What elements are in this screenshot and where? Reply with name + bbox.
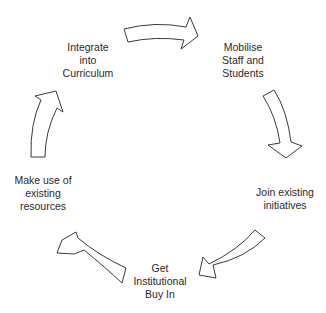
node-line: resources — [5, 200, 81, 213]
node-line: Make use of — [5, 174, 81, 187]
cycle-diagram: Mobilise Staff and Students Join existin… — [0, 0, 326, 313]
curved-arrow-down-left-icon — [199, 230, 265, 278]
node-line: Integrate — [53, 41, 123, 54]
curved-arrow-up-icon — [31, 91, 63, 157]
node-line: initiatives — [245, 199, 325, 212]
node-line: Mobilise — [208, 41, 278, 54]
curved-arrow-up-left-icon — [57, 232, 126, 283]
node-line: Join existing — [245, 186, 325, 199]
curved-arrow-right-icon — [124, 17, 198, 49]
node-integrate: Integrate into Curriculum — [53, 41, 123, 80]
node-buyin: Get Institutional Buy In — [125, 262, 195, 301]
node-resources: Make use of existing resources — [5, 174, 81, 213]
node-line: existing — [5, 187, 81, 200]
node-line: Buy In — [125, 288, 195, 301]
node-line: Curriculum — [53, 67, 123, 80]
node-line: Get — [125, 262, 195, 275]
node-line: into — [53, 54, 123, 67]
node-line: Students — [208, 67, 278, 80]
node-mobilise: Mobilise Staff and Students — [208, 41, 278, 80]
node-line: Institutional — [125, 275, 195, 288]
curved-arrow-down-icon — [263, 90, 302, 158]
node-join: Join existing initiatives — [245, 186, 325, 212]
node-line: Staff and — [208, 54, 278, 67]
